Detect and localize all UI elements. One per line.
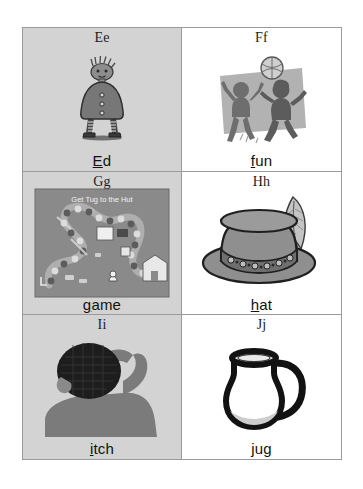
letter-pair-hh: Hh (253, 175, 271, 190)
word-label-fun: fun (251, 153, 272, 169)
word-label-ed: Ed (93, 153, 112, 169)
alphabet-chart: Ee (22, 27, 342, 460)
word-label-itch: itch (90, 441, 114, 457)
word-label-game: game (83, 297, 121, 313)
word-rest-tch: tch (93, 440, 114, 457)
chart-cell-jj[interactable]: Jj jug (182, 315, 341, 459)
illustration-boy-character-ed (23, 46, 181, 153)
chart-cell-ii[interactable]: Ii (23, 315, 182, 459)
illustration-person-scratching-head (23, 333, 181, 441)
chart-cell-hh[interactable]: Hh (182, 172, 341, 316)
illustration-jug-pitcher (182, 333, 341, 441)
word-rest-at: at (259, 296, 272, 313)
word-label-hat: hat (251, 297, 272, 313)
letter-pair-gg: Gg (93, 175, 111, 190)
chart-cell-ff[interactable]: Ff (182, 28, 341, 172)
chart-cell-gg[interactable]: Gg Get Tug to the Hut (23, 172, 182, 316)
letter-pair-jj: Jj (257, 318, 267, 333)
letter-pair-ee: Ee (94, 31, 109, 46)
board-game-caption: Get Tug to the Hut (71, 195, 133, 204)
word-rest-un: un (255, 152, 272, 169)
word-label-jug: jug (251, 441, 272, 457)
word-rest-ame: ame (91, 296, 121, 313)
word-initial-e: E (93, 152, 103, 169)
chart-cell-ee[interactable]: Ee (23, 28, 182, 172)
letter-pair-ff: Ff (255, 31, 268, 46)
illustration-hat-with-feather (182, 189, 341, 296)
word-rest-ug: ug (255, 440, 272, 457)
letter-pair-ii: Ii (98, 318, 107, 333)
illustration-board-game: Get Tug to the Hut (23, 189, 181, 296)
word-rest-d: d (103, 152, 112, 169)
illustration-children-playing-ball (182, 46, 341, 153)
